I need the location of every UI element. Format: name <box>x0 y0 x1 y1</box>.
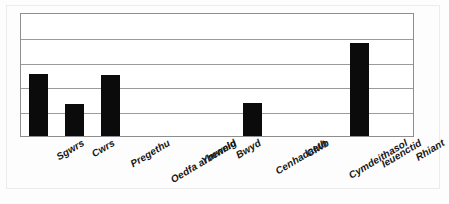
x-axis-tick-labels: SgwrsCwrsPregethuOedfa arbennigYmweldBwy… <box>20 137 414 197</box>
bar-slot <box>128 14 164 136</box>
x-tick-label-bwyd: Bwyd <box>234 137 263 160</box>
bar-chart-figure: SgwrsCwrsPregethuOedfa arbennigYmweldBwy… <box>0 0 449 204</box>
x-tick-label-clwb: Clwb <box>304 137 330 159</box>
x-tick-label-sgwrs: Sgwrs <box>54 137 86 162</box>
bar-slot <box>306 14 342 136</box>
bar <box>350 43 369 136</box>
x-tick-label-pregethu: Pregethu <box>128 137 172 169</box>
bars-layer <box>21 14 413 136</box>
plot-area <box>20 13 414 137</box>
x-tick-label-cwrs: Cwrs <box>90 137 117 159</box>
bar-slot <box>21 14 57 136</box>
bar-slot <box>164 14 200 136</box>
bar <box>29 74 48 136</box>
bar <box>65 104 84 136</box>
bar-slot <box>342 14 378 136</box>
bar-slot <box>377 14 413 136</box>
bar <box>101 75 120 136</box>
bar-slot <box>235 14 271 136</box>
bar-slot <box>92 14 128 136</box>
bar <box>243 103 262 136</box>
bar-slot <box>270 14 306 136</box>
bar-slot <box>199 14 235 136</box>
bar-slot <box>57 14 93 136</box>
x-tick-label-ymweld: Ymweld <box>199 137 238 166</box>
